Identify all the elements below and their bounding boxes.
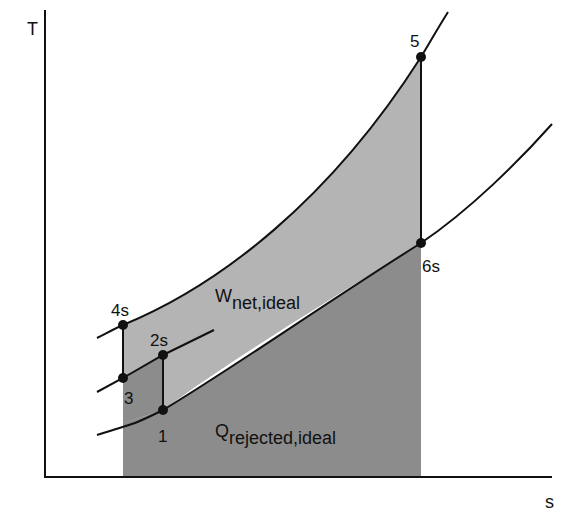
ts-diagram: T s 4s 2s 3 1 5 6s Wnet,ideal Qrejected,… bbox=[0, 0, 578, 520]
label-6s: 6s bbox=[422, 257, 440, 276]
state-point-3 bbox=[118, 373, 128, 383]
y-axis-label: T bbox=[27, 19, 38, 39]
state-point-2s bbox=[158, 350, 168, 360]
x-axis-label: s bbox=[545, 492, 554, 512]
state-point-5 bbox=[416, 52, 426, 62]
state-point-1 bbox=[158, 405, 168, 415]
state-point-6s bbox=[416, 238, 426, 248]
label-5: 5 bbox=[410, 32, 419, 51]
label-1: 1 bbox=[158, 427, 167, 446]
label-3: 3 bbox=[124, 389, 133, 408]
state-point-4s bbox=[118, 320, 128, 330]
label-2s: 2s bbox=[150, 331, 168, 350]
label-4s: 4s bbox=[111, 301, 129, 320]
